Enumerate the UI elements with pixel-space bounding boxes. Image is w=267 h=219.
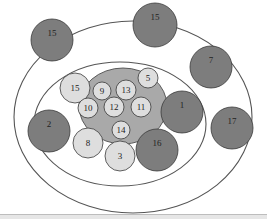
node-circle: [161, 91, 203, 133]
node-label: 1: [180, 100, 185, 110]
node-label: 15: [71, 83, 81, 93]
node-label: 17: [228, 116, 238, 126]
node-7: 7: [190, 46, 232, 88]
node-label: 2: [47, 119, 52, 129]
node-circle: [211, 107, 253, 149]
node-2: 2: [28, 110, 70, 152]
node-16: 16: [136, 129, 178, 171]
node-label: 5: [146, 73, 151, 83]
node-14: 14: [112, 121, 130, 139]
node-label: 3: [118, 151, 123, 161]
node-label: 12: [110, 102, 119, 112]
node-15: 15: [31, 19, 73, 61]
node-label: 14: [117, 125, 127, 135]
node-label: 9: [100, 86, 105, 96]
node-8: 8: [73, 128, 103, 158]
node-15: 15: [133, 3, 177, 47]
node-9: 9: [93, 82, 111, 100]
node-circle: [136, 129, 178, 171]
node-circle: [133, 3, 177, 47]
node-circle: [31, 19, 73, 61]
bottom-border-strip: [0, 214, 267, 219]
node-circle: [190, 46, 232, 88]
node-circle: [28, 110, 70, 152]
node-3: 3: [105, 141, 135, 171]
node-5: 5: [138, 68, 158, 88]
node-label: 10: [84, 103, 94, 113]
node-17: 17: [211, 107, 253, 149]
node-label: 15: [48, 28, 58, 38]
node-13: 13: [116, 80, 136, 100]
node-12: 12: [104, 97, 124, 117]
node-label: 7: [209, 55, 214, 65]
node-label: 8: [86, 138, 91, 148]
node-1: 1: [161, 91, 203, 133]
node-label: 13: [122, 85, 132, 95]
node-label: 11: [137, 102, 146, 112]
node-10: 10: [78, 98, 98, 118]
concentric-node-diagram: 151572116171559131012111483: [0, 0, 267, 219]
node-label: 15: [151, 12, 161, 22]
node-label: 16: [153, 138, 163, 148]
node-11: 11: [131, 97, 151, 117]
